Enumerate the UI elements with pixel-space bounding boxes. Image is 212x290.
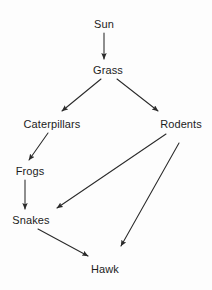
edge-caterpillars-frogs	[29, 133, 48, 160]
node-sun: Sun	[94, 18, 114, 31]
edge-snakes-hawk	[38, 229, 88, 256]
node-grass: Grass	[93, 64, 123, 77]
node-frogs: Frogs	[16, 165, 45, 178]
edge-layer	[0, 0, 212, 290]
node-rodents: Rodents	[160, 118, 202, 131]
food-web-diagram: Sun Grass Caterpillars Rodents Frogs Sna…	[0, 0, 212, 290]
node-snakes: Snakes	[12, 214, 49, 227]
edge-grass-caterpillars	[62, 79, 101, 111]
edge-grass-rodents	[117, 79, 158, 111]
edge-rodents-snakes	[57, 134, 166, 208]
edge-rodents-hawk	[121, 143, 179, 246]
node-hawk: Hawk	[91, 263, 119, 276]
node-caterpillars: Caterpillars	[24, 118, 81, 131]
